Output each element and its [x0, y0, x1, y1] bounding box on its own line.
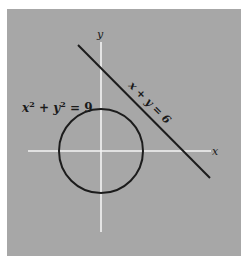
circle-line-diagram: x y x2 + y2 = 9 x + y = 6: [0, 0, 249, 263]
x-axis-label: x: [212, 145, 219, 158]
y-axis-label: y: [96, 28, 104, 41]
plot-background: [7, 9, 241, 256]
